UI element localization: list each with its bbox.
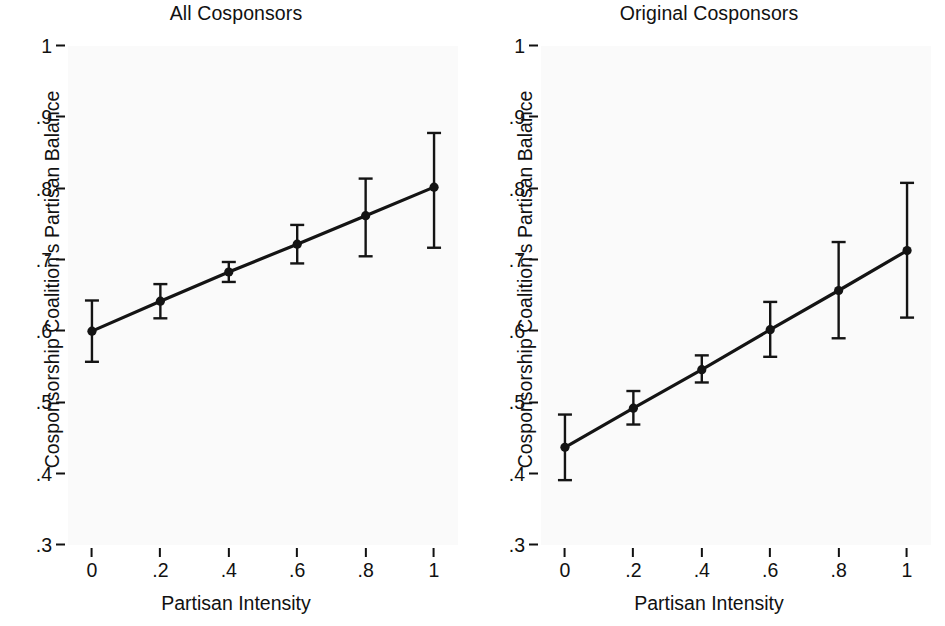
x-axis-tick-label: .8 — [830, 559, 846, 581]
x-axis-label: Partisan Intensity — [0, 592, 472, 615]
x-axis-tick: .6 — [762, 545, 778, 582]
data-point-group — [695, 355, 709, 382]
y-axis-tick: .3 — [36, 534, 68, 557]
y-axis-tick-mark — [529, 544, 538, 546]
y-axis-tick-label: .9 — [36, 106, 52, 129]
y-axis-tick: .7 — [509, 248, 541, 271]
trend-line — [92, 187, 434, 331]
y-axis-tick: .4 — [509, 462, 541, 485]
y-axis-tick: .5 — [509, 391, 541, 414]
x-axis-tick: 1 — [429, 545, 440, 582]
data-point-group — [900, 183, 914, 318]
x-axis-tick: .4 — [221, 545, 237, 582]
x-axis-tick-mark — [91, 548, 93, 557]
x-axis-tick-label: 1 — [429, 559, 440, 581]
y-axis-tick-mark — [529, 259, 538, 261]
data-point-group — [85, 300, 99, 361]
data-point-group — [222, 262, 236, 282]
y-axis-tick-label: 1 — [41, 35, 52, 58]
x-axis-tick: .8 — [830, 545, 846, 582]
trend-line — [565, 251, 907, 448]
y-axis-tick: .7 — [36, 248, 68, 271]
x-axis-tick: 0 — [87, 545, 98, 582]
chart-svg — [68, 46, 458, 545]
x-axis-tick: .4 — [694, 545, 710, 582]
x-axis-tick: 1 — [902, 545, 913, 582]
y-axis-tick: .5 — [36, 391, 68, 414]
y-axis-tick-mark — [56, 45, 65, 47]
y-axis-tick-label: .7 — [509, 248, 525, 271]
y-axis-tick-label: .9 — [509, 106, 525, 129]
data-point-marker — [224, 267, 233, 276]
y-axis-tick-label: .4 — [36, 462, 52, 485]
x-axis-tick-label: .4 — [221, 559, 237, 581]
y-axis-tick-label: .8 — [509, 177, 525, 200]
y-axis-tick-mark — [529, 45, 538, 47]
x-axis-tick-mark — [228, 548, 230, 557]
y-axis-tick-mark — [529, 401, 538, 403]
x-axis-tick-label: .8 — [357, 559, 373, 581]
y-axis-tick-label: .6 — [36, 320, 52, 343]
x-axis-tick-mark — [632, 548, 634, 557]
y-axis-tick: 1 — [514, 35, 541, 58]
data-point-group — [763, 302, 777, 357]
data-point-marker — [87, 327, 96, 336]
data-point-marker — [361, 211, 370, 220]
data-point-marker — [293, 240, 302, 249]
data-point-marker — [560, 443, 569, 452]
x-axis-tick: 0 — [560, 545, 571, 582]
x-axis-tick-mark — [365, 548, 367, 557]
y-axis-tick-mark — [56, 544, 65, 546]
x-axis-tick-mark — [433, 548, 435, 557]
x-axis-label: Partisan Intensity — [473, 592, 945, 615]
y-axis-tick-label: .5 — [36, 391, 52, 414]
y-axis-tick-mark — [529, 472, 538, 474]
x-axis-tick-label: 1 — [902, 559, 913, 581]
data-point-group — [290, 225, 304, 263]
y-axis-tick-mark — [56, 187, 65, 189]
data-point-group — [558, 415, 572, 481]
x-axis-tick-mark — [296, 548, 298, 557]
x-axis-tick: .8 — [357, 545, 373, 582]
panel-title: Original Cosponsors — [473, 2, 945, 25]
x-axis-tick: .2 — [152, 545, 168, 582]
x-axis-tick-label: 0 — [87, 559, 98, 581]
x-axis-tick-label: .6 — [289, 559, 305, 581]
y-axis-tick-mark — [529, 187, 538, 189]
x-axis-tick-label: .4 — [694, 559, 710, 581]
data-point-group — [832, 242, 846, 338]
data-point-marker — [629, 404, 638, 413]
y-axis-tick: .3 — [509, 534, 541, 557]
y-axis-tick: .9 — [509, 106, 541, 129]
data-point-group — [153, 284, 167, 318]
y-axis-tick: .8 — [36, 177, 68, 200]
plot-area: .3.4.5.6.7.8.910.2.4.6.81 — [541, 46, 931, 545]
data-point-marker — [766, 325, 775, 334]
y-axis-tick-label: .5 — [509, 391, 525, 414]
data-point-marker — [834, 286, 843, 295]
figure-container: All Cosponsors Cosponsorship Coalition's… — [0, 0, 945, 626]
y-axis-tick: .4 — [36, 462, 68, 485]
y-axis-tick: .8 — [509, 177, 541, 200]
y-axis-tick-label: .4 — [509, 462, 525, 485]
y-axis-tick-label: 1 — [514, 35, 525, 58]
data-point-group — [626, 391, 640, 425]
data-point-marker — [697, 365, 706, 374]
y-axis-tick-mark — [56, 116, 65, 118]
panel-title: All Cosponsors — [0, 2, 472, 25]
panel-original-cosponsors: Original Cosponsors Cosponsorship Coalit… — [473, 0, 945, 626]
plot-area: .3.4.5.6.7.8.910.2.4.6.81 — [68, 46, 458, 545]
y-axis-tick-label: .3 — [509, 534, 525, 557]
x-axis-tick-label: .2 — [625, 559, 641, 581]
chart-svg — [541, 46, 931, 545]
x-axis-tick-label: .2 — [152, 559, 168, 581]
panel-all-cosponsors: All Cosponsors Cosponsorship Coalition's… — [0, 0, 472, 626]
y-axis-tick-mark — [529, 330, 538, 332]
y-axis-tick: .9 — [36, 106, 68, 129]
x-axis-tick-mark — [159, 548, 161, 557]
y-axis-tick-label: .3 — [36, 534, 52, 557]
y-axis-tick-mark — [529, 116, 538, 118]
x-axis-tick: .6 — [289, 545, 305, 582]
y-axis-tick-mark — [56, 401, 65, 403]
x-axis-tick-mark — [906, 548, 908, 557]
